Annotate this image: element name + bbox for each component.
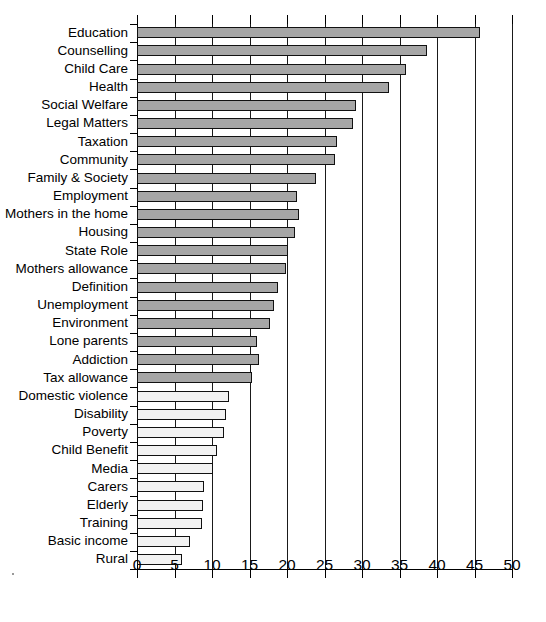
bar-poverty	[137, 427, 224, 438]
y-tick	[130, 60, 137, 61]
y-tick	[130, 169, 137, 170]
bar-environment	[137, 318, 270, 329]
bar-row	[137, 387, 512, 405]
y-tick	[130, 333, 137, 334]
category-label-education: Education	[0, 26, 131, 40]
horizontal-bar-chart: EducationCounsellingChild CareHealthSoci…	[0, 0, 546, 622]
bar-row	[137, 115, 512, 133]
y-tick	[130, 151, 137, 152]
x-tick-label-15: 15	[230, 556, 270, 574]
bar-elderly	[137, 500, 203, 511]
y-tick	[130, 351, 137, 352]
x-tick-top-30	[362, 15, 363, 24]
bar-media	[137, 463, 213, 474]
bar-row	[137, 369, 512, 387]
bar-row	[137, 515, 512, 533]
category-label-taxation: Taxation	[0, 135, 131, 149]
x-tick-top-0	[137, 15, 138, 24]
bar-row	[137, 351, 512, 369]
y-tick	[130, 278, 137, 279]
y-tick	[130, 533, 137, 534]
plot-area	[137, 24, 512, 569]
y-tick	[130, 188, 137, 189]
bar-community	[137, 154, 335, 165]
category-label-definition: Definition	[0, 280, 131, 294]
bar-row	[137, 533, 512, 551]
category-label-family-society: Family & Society	[0, 171, 131, 185]
x-tick-top-15	[250, 15, 251, 24]
bar-row	[137, 424, 512, 442]
bar-employment	[137, 191, 297, 202]
gridline-50	[512, 24, 513, 569]
bar-row	[137, 333, 512, 351]
bar-child-benefit	[137, 445, 217, 456]
y-tick	[130, 24, 137, 25]
category-label-rural: Rural	[0, 552, 131, 566]
bar-lone-parents	[137, 336, 257, 347]
bar-row	[137, 188, 512, 206]
bar-row	[137, 42, 512, 60]
x-tick-label-0: 0	[117, 556, 157, 574]
speck-artifact	[12, 573, 14, 575]
x-tick-label-10: 10	[192, 556, 232, 574]
bar-state-role	[137, 245, 288, 256]
category-label-state-role: State Role	[0, 244, 131, 258]
y-tick	[130, 206, 137, 207]
y-tick	[130, 315, 137, 316]
x-tick-label-35: 35	[380, 556, 420, 574]
x-tick-top-40	[437, 15, 438, 24]
x-tick-label-20: 20	[267, 556, 307, 574]
category-label-elderly: Elderly	[0, 498, 131, 512]
category-label-domestic-violence: Domestic violence	[0, 389, 131, 403]
bar-taxation	[137, 136, 337, 147]
x-tick-label-5: 5	[155, 556, 195, 574]
y-tick	[130, 460, 137, 461]
category-label-lone-parents: Lone parents	[0, 334, 131, 348]
category-label-employment: Employment	[0, 189, 131, 203]
category-label-mothers-allowance: Mothers allowance	[0, 262, 131, 276]
y-tick	[130, 79, 137, 80]
bar-tax-allowance	[137, 372, 252, 383]
y-tick	[130, 224, 137, 225]
x-tick-top-20	[287, 15, 288, 24]
bar-counselling	[137, 45, 427, 56]
x-tick-top-5	[175, 15, 176, 24]
category-label-community: Community	[0, 153, 131, 167]
x-tick-top-10	[212, 15, 213, 24]
bar-row	[137, 297, 512, 315]
bar-row	[137, 97, 512, 115]
category-label-tax-allowance: Tax allowance	[0, 371, 131, 385]
y-tick	[130, 42, 137, 43]
category-label-health: Health	[0, 80, 131, 94]
y-tick	[130, 515, 137, 516]
bar-row	[137, 406, 512, 424]
y-tick	[130, 260, 137, 261]
bar-row	[137, 169, 512, 187]
bar-row	[137, 133, 512, 151]
bar-mothers-allowance	[137, 263, 286, 274]
x-tick-top-35	[400, 15, 401, 24]
category-label-disability: Disability	[0, 407, 131, 421]
bar-mothers-in-the-home	[137, 209, 299, 220]
y-tick	[130, 133, 137, 134]
y-tick	[130, 442, 137, 443]
category-label-child-benefit: Child Benefit	[0, 443, 131, 457]
bar-social-welfare	[137, 100, 356, 111]
y-tick	[130, 387, 137, 388]
y-tick	[130, 369, 137, 370]
bar-row	[137, 478, 512, 496]
category-label-child-care: Child Care	[0, 62, 131, 76]
y-tick	[130, 97, 137, 98]
bar-family-society	[137, 173, 316, 184]
category-label-media: Media	[0, 462, 131, 476]
category-label-mothers-in-the-home: Mothers in the home	[0, 207, 131, 221]
bar-carers	[137, 481, 204, 492]
y-tick	[130, 551, 137, 552]
bar-row	[137, 315, 512, 333]
bar-health	[137, 82, 389, 93]
bar-child-care	[137, 64, 406, 75]
bar-education	[137, 27, 480, 38]
bar-row	[137, 278, 512, 296]
bar-legal-matters	[137, 118, 353, 129]
y-tick	[130, 478, 137, 479]
